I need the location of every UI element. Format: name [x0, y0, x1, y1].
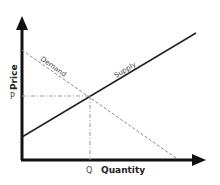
demand-curve: [22, 50, 176, 158]
price-equilibrium-label: P: [10, 92, 15, 101]
y-axis-arrow-icon: [16, 16, 28, 30]
supply-demand-diagram: Price Quantity P Q Demand Supply: [0, 0, 220, 185]
y-axis-label: Price: [9, 64, 19, 90]
quantity-equilibrium-label: Q: [86, 166, 92, 175]
x-axis-label: Quantity: [101, 165, 145, 175]
x-axis-arrow-icon: [192, 154, 206, 166]
supply-curve: [22, 33, 196, 137]
demand-label: Demand: [39, 55, 68, 79]
